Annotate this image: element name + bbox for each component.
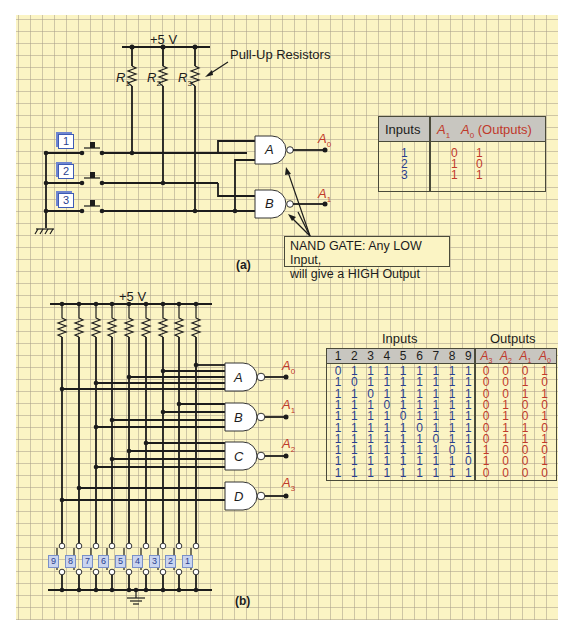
cell-input: 1 <box>460 467 476 479</box>
output-label-sub: 2 <box>291 445 295 454</box>
truth-table-b: 123456789 A3A2A1A0 011111111000110111111… <box>326 348 557 481</box>
header-outputs-suffix: (Outputs) <box>478 122 532 137</box>
arrow-head-icon <box>285 167 291 175</box>
header-input-8: 8 <box>444 350 460 362</box>
output-label-a1: A1 <box>318 186 331 204</box>
resistor-label-sub: 1 <box>125 79 129 88</box>
cell-input: 1 <box>346 467 362 479</box>
resistor-r2 <box>159 47 167 183</box>
gate-label-b-b: B <box>234 410 243 425</box>
cell-input: 1 <box>395 467 411 479</box>
header-a0: A <box>461 122 470 137</box>
resistor-label-sub: 3 <box>187 79 191 88</box>
header-input-6: 6 <box>412 350 428 362</box>
output-label-main: A <box>282 397 291 412</box>
switch-key-2: 2 <box>58 164 74 179</box>
supply-label-b: +5 V <box>119 289 146 304</box>
output-label-a1-b: A1 <box>282 397 295 415</box>
switch-1 <box>44 142 247 155</box>
gate-label-a: A <box>265 142 274 157</box>
cell-input: 3 <box>401 170 408 181</box>
header-input-1: 1 <box>330 350 346 362</box>
caption-b: (b) <box>235 594 250 608</box>
header-a1-sub: 1 <box>446 131 450 140</box>
output-label-main: A <box>282 436 291 451</box>
gate-label-d-b: D <box>234 489 243 504</box>
switch-2 <box>44 172 255 196</box>
table-divider <box>429 117 431 191</box>
header-input-9: 9 <box>460 350 476 362</box>
cell-output: 0 <box>517 467 533 479</box>
cell-a1: 1 <box>451 170 458 181</box>
output-label-sub: 0 <box>291 367 295 376</box>
switch-3 <box>44 200 255 213</box>
output-label-sub: 0 <box>327 140 331 149</box>
switch-key-2: 2 <box>165 555 176 568</box>
resistor-label-main: R <box>116 70 125 85</box>
header-output-sub: 1 <box>528 357 532 364</box>
circuit-diagram <box>0 0 574 636</box>
nand-note-box: NAND GATE: Any LOW Input, will give a HI… <box>284 236 450 267</box>
nand-note-line1: NAND GATE: Any LOW Input, <box>290 239 449 267</box>
pull-up-label: Pull-Up Resistors <box>230 47 330 62</box>
caption-a: (a) <box>236 258 251 272</box>
switch-key-3: 3 <box>58 193 74 208</box>
ground-icon <box>35 229 54 234</box>
header-input-3: 3 <box>363 350 379 362</box>
switch-key-8: 8 <box>65 555 76 568</box>
cell-input: 1 <box>330 467 346 479</box>
output-label-a2-b: A2 <box>282 436 295 454</box>
arrow-head-icon <box>288 214 296 221</box>
header-a0-sub: 0 <box>470 131 474 140</box>
group-label-inputs: Inputs <box>382 331 417 346</box>
cell-input: 1 <box>412 467 428 479</box>
header-input-7: 7 <box>428 350 444 362</box>
switch-key-6: 6 <box>98 555 109 568</box>
output-label-main: A <box>318 131 327 146</box>
header-output-main: A <box>520 349 528 363</box>
cell-input: 1 <box>428 467 444 479</box>
switch-key-4: 4 <box>132 555 143 568</box>
resistor-bank <box>58 302 200 545</box>
truth-table-a: Inputs A1 A0 (Outputs) 1 0 1 2 1 0 3 1 1 <box>378 116 546 192</box>
switch-key-1: 1 <box>182 555 193 568</box>
resistor-label-main: R <box>147 70 156 85</box>
gate-label-a-b: A <box>234 370 243 385</box>
header-output-main: A <box>481 349 489 363</box>
switch-key-7: 7 <box>82 555 93 568</box>
cell-input: 1 <box>444 467 460 479</box>
cell-input: 1 <box>379 467 395 479</box>
resistor-label-main: R <box>178 70 187 85</box>
gate-label-b: B <box>265 196 274 211</box>
header-input-4: 4 <box>379 350 395 362</box>
resistor-label-sub: 2 <box>156 79 160 88</box>
arrow-head-icon <box>205 70 213 77</box>
output-label-sub: 1 <box>327 195 331 204</box>
output-label-a3-b: A3 <box>282 475 295 493</box>
cell-input: 1 <box>363 467 379 479</box>
output-label-sub: 3 <box>291 484 295 493</box>
switch-key-5: 5 <box>115 555 126 568</box>
switch-key-9: 9 <box>48 555 59 568</box>
cell-output: 0 <box>498 467 514 479</box>
resistor-label-r1: R1 <box>116 70 130 88</box>
header-input-5: 5 <box>395 350 411 362</box>
gate-label-c-b: C <box>234 449 243 464</box>
supply-label-a: +5 V <box>150 32 177 47</box>
header-outputs: A1 A0 (Outputs) <box>437 122 532 140</box>
header-output-main: A <box>500 349 508 363</box>
output-label-a0: A0 <box>318 131 331 149</box>
output-label-main: A <box>282 475 291 490</box>
header-output-sub: 3 <box>489 357 493 364</box>
nand-note-line2: will give a HIGH Output <box>290 267 449 281</box>
cell-output: 0 <box>537 467 553 479</box>
header-inputs: Inputs <box>385 122 420 137</box>
cell-output: 0 <box>478 467 494 479</box>
resistor-r1 <box>128 47 136 153</box>
resistor-label-r2: R2 <box>147 70 161 88</box>
output-label-main: A <box>282 358 291 373</box>
resistor-r3 <box>191 47 199 211</box>
cell-a0: 1 <box>476 170 483 181</box>
header-a1: A <box>437 122 446 137</box>
switch-key-1: 1 <box>58 134 74 149</box>
